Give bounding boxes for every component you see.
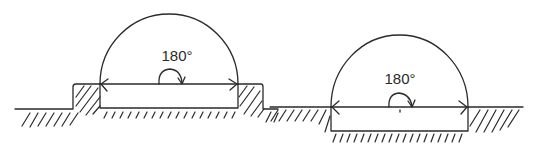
hatching-right-fig-right [470, 110, 519, 132]
angle-label-left: 180° [161, 47, 192, 64]
ground-outline-left [15, 84, 278, 109]
hatching-right-fig-bottom [333, 134, 462, 142]
hatching-left-shoulder [76, 86, 100, 115]
angle-label-right: 180° [384, 70, 415, 87]
figure-raised: 180° [15, 14, 278, 127]
rotation-arrow-right [389, 93, 412, 107]
hatching-left-ground [22, 112, 235, 127]
rotation-arrow-left [159, 69, 182, 84]
arrowhead-left-a [101, 79, 108, 91]
ground-outline-right [270, 107, 523, 131]
hatching-right-fig-left [271, 110, 330, 132]
diagram-canvas: 180° [0, 0, 545, 164]
figure-recessed: 180° [270, 35, 523, 142]
hatching-right-shoulder [239, 86, 278, 122]
